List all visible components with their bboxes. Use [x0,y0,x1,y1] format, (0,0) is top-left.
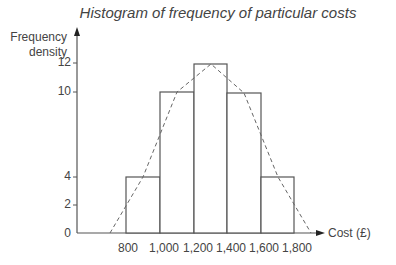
bar-1400-1600 [227,93,261,233]
y-axis [73,27,80,233]
bar-1000-1200 [160,92,194,233]
bar-1600-1800 [261,177,294,233]
bar-1200-1400 [194,64,227,233]
y-axis-arrow-icon [74,27,80,36]
x-axis-arrow-icon [316,230,325,236]
bar-800-1000 [126,177,160,233]
histogram-bars [126,64,294,233]
histogram-plot [0,0,396,265]
